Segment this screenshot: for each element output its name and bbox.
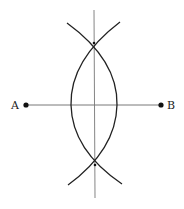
intersection-top: [93, 42, 96, 45]
label-b: B: [167, 99, 175, 112]
arc-from-b: [71, 22, 122, 184]
arc-from-a: [67, 23, 117, 185]
perpendicular-bisector: [94, 10, 95, 198]
label-a: A: [10, 99, 20, 112]
intersection-bottom: [94, 164, 97, 167]
bisector-diagram: A B: [0, 0, 184, 209]
point-a: [23, 102, 28, 107]
point-b: [158, 102, 163, 107]
